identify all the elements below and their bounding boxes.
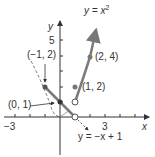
tick-label-5: 5 — [49, 35, 55, 46]
piecewise-graph: y x 5 −3 3 y = x2 y = −x + 1 (−1, 2) (0,… — [0, 0, 155, 157]
open-point-1-0 — [72, 114, 78, 120]
open-point-1-1 — [72, 99, 78, 105]
point-0-1 — [58, 100, 63, 105]
tick-label-neg3: −3 — [4, 121, 16, 132]
point-m1-2 — [43, 85, 48, 90]
line-label: y = −x + 1 — [78, 131, 123, 142]
point-label-0-1: (0, 1) — [8, 99, 31, 110]
point-label-m1-2: (−1, 2) — [27, 49, 56, 60]
point-2-4 — [88, 55, 93, 60]
x-axis-label: x — [141, 121, 148, 132]
point-1-2 — [73, 85, 78, 90]
point-label-1-2: (1, 2) — [82, 81, 105, 92]
y-axis-label: y — [47, 21, 54, 32]
point-label-2-4: (2, 4) — [95, 51, 118, 62]
line-dashed-left — [60, 110, 70, 117]
parabola-label: y = x2 — [83, 4, 109, 16]
